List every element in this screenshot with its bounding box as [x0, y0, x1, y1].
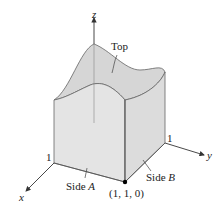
side-b-leader	[143, 160, 151, 171]
side-a-face	[54, 84, 125, 182]
x-axis-label: x	[18, 191, 24, 203]
z-axis-label: z	[91, 8, 97, 20]
side-b-letter: B	[168, 171, 175, 183]
corner-point-label: (1, 1, 0)	[109, 187, 144, 200]
y-axis	[165, 143, 204, 155]
y-axis-label: y	[206, 149, 212, 161]
side-a-letter: A	[87, 180, 95, 192]
side-a-label: Side A	[66, 180, 95, 192]
side-b-label: Side B	[146, 171, 175, 183]
side-b-prefix: Side	[146, 171, 168, 183]
top-label: Top	[111, 40, 128, 52]
x-tick-1: 1	[46, 151, 52, 163]
y-tick-1: 1	[167, 132, 173, 144]
x-axis	[26, 163, 54, 191]
diagram-canvas: z y x 1 1 Top Side A Side B (1, 1, 0)	[0, 0, 221, 206]
corner-point-marker	[123, 180, 127, 184]
side-a-prefix: Side	[66, 180, 88, 192]
solid-diagram: z y x 1 1 Top Side A Side B (1, 1, 0)	[0, 0, 221, 206]
